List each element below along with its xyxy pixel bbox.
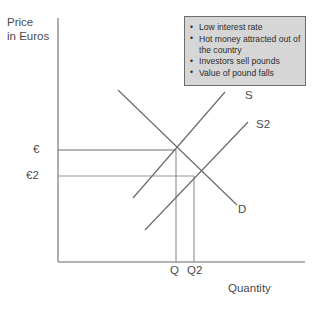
price-tick-label-new: €2: [26, 169, 39, 183]
annotation-bullet-list: Low interest rate Hot money attracted ou…: [185, 17, 305, 79]
list-item: Hot money attracted out of the country: [190, 34, 301, 56]
price-tick-label-original: €: [33, 143, 39, 157]
list-item: Value of pound falls: [190, 68, 301, 79]
quantity-tick-label-new: Q2: [187, 264, 202, 278]
y-axis-title: Price in Euros: [7, 16, 49, 43]
x-axis-title: Quantity: [228, 282, 271, 296]
list-item: Investors sell pounds: [190, 56, 301, 67]
demand-curve-label: D: [238, 203, 246, 217]
supply-curve-original: [133, 92, 225, 198]
supply-shifted-curve-label: S2: [256, 118, 270, 132]
annotation-box: Low interest rate Hot money attracted ou…: [184, 16, 306, 86]
supply-curve-label: S: [245, 89, 253, 103]
list-item: Low interest rate: [190, 22, 301, 33]
quantity-tick-label-original: Q: [170, 264, 179, 278]
